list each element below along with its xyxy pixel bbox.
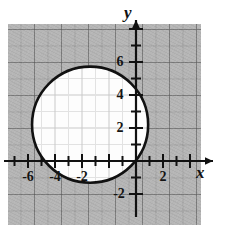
y-tick-label-2: 2 (114, 121, 126, 135)
x-tick-label-minus4: -4 (44, 170, 66, 184)
x-tick-label-minus6: -6 (17, 170, 39, 184)
y-tick-label-6: 6 (114, 55, 126, 69)
graph-figure: x y -6 -4 -2 2 6 4 2 -2 (0, 0, 227, 232)
x-axis-name-label: x (196, 164, 205, 181)
y-tick-label-minus2: -2 (108, 187, 130, 201)
y-tick-label-4: 4 (114, 88, 126, 102)
x-tick-label-minus2: -2 (71, 170, 93, 184)
x-tick-label-2: 2 (157, 170, 169, 184)
y-axis-name-label: y (124, 4, 132, 21)
